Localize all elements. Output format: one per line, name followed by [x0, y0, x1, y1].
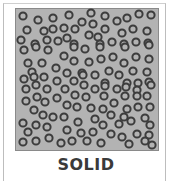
- particle-icon: [34, 16, 41, 23]
- particle-icon: [70, 57, 77, 64]
- particle-icon: [145, 41, 152, 48]
- particle-icon: [118, 133, 125, 140]
- particle-icon: [148, 141, 155, 148]
- state-label: SOLID: [0, 155, 172, 174]
- particle-icon: [43, 123, 50, 130]
- particle-icon: [146, 103, 153, 110]
- particle-icon: [113, 85, 120, 92]
- particle-icon: [65, 11, 72, 18]
- particle-icon: [32, 81, 39, 88]
- particle-icon: [49, 14, 56, 21]
- particle-icon: [85, 58, 92, 65]
- particle-icon: [30, 106, 37, 113]
- particle-icon: [54, 37, 61, 44]
- particle-icon: [133, 130, 140, 137]
- particle-icon: [97, 55, 104, 62]
- particle-icon: [19, 119, 26, 126]
- particle-icon: [33, 93, 40, 100]
- particle-icon: [97, 139, 104, 146]
- particle-icon: [129, 67, 136, 74]
- particle-icon: [22, 85, 29, 92]
- particle-icon: [113, 17, 120, 24]
- particle-icon: [127, 117, 134, 124]
- particle-icon: [145, 55, 152, 62]
- particle-icon: [143, 27, 150, 34]
- particle-icon: [83, 137, 90, 144]
- particle-icon: [79, 71, 86, 78]
- particle-icon: [120, 113, 127, 120]
- particle-icon: [99, 121, 106, 128]
- particle-icon: [19, 12, 26, 19]
- particle-icon: [63, 34, 70, 41]
- particle-icon: [107, 111, 114, 118]
- particle-icon: [32, 121, 39, 128]
- particle-icon: [81, 45, 88, 52]
- particle-icon: [115, 71, 122, 78]
- particle-icon: [78, 18, 85, 25]
- particle-icon: [60, 113, 67, 120]
- particle-icon: [19, 138, 26, 145]
- particle-icon: [70, 77, 77, 84]
- particle-icon: [24, 128, 31, 135]
- particle-icon: [53, 77, 60, 84]
- particle-icon: [143, 92, 150, 99]
- particle-icon: [30, 73, 37, 80]
- particle-icon: [146, 121, 153, 128]
- particle-icon: [49, 113, 56, 120]
- particle-icon: [60, 52, 67, 59]
- particle-icon: [132, 38, 139, 45]
- particle-icon: [77, 129, 84, 136]
- particle-icon: [24, 59, 31, 66]
- particle-icon: [63, 126, 70, 133]
- particle-icon: [134, 103, 141, 110]
- particle-icon: [122, 83, 129, 90]
- particle-icon: [91, 71, 98, 78]
- particle-icon: [53, 94, 60, 101]
- particle-icon: [70, 43, 77, 50]
- particle-icon: [61, 85, 68, 92]
- particle-icon: [118, 29, 125, 36]
- particle-icon: [60, 24, 67, 31]
- particle-icon: [101, 82, 108, 89]
- particle-icon: [22, 97, 29, 104]
- particle-icon: [43, 36, 50, 43]
- particle-icon: [132, 53, 139, 60]
- particle-icon: [63, 101, 70, 108]
- particle-icon: [80, 81, 87, 88]
- particle-icon: [141, 137, 148, 144]
- particle-icon: [20, 46, 27, 53]
- particle-icon: [71, 91, 78, 98]
- solid-particle-box: [15, 8, 159, 151]
- particle-icon: [123, 14, 130, 21]
- particle-icon: [39, 111, 46, 118]
- particle-icon: [17, 36, 24, 43]
- particle-icon: [87, 104, 94, 111]
- particle-icon: [32, 43, 39, 50]
- particle-icon: [89, 20, 96, 27]
- particle-icon: [23, 26, 30, 33]
- particle-icon: [20, 75, 27, 82]
- particle-icon: [121, 92, 128, 99]
- particle-icon: [125, 140, 132, 147]
- particle-icon: [91, 85, 98, 92]
- particle-icon: [43, 85, 50, 92]
- particle-icon: [96, 43, 103, 50]
- particle-icon: [133, 92, 140, 99]
- particle-icon: [121, 43, 128, 50]
- particle-icon: [45, 134, 52, 141]
- particle-icon: [32, 137, 39, 144]
- particle-icon: [68, 137, 75, 144]
- particle-icon: [89, 128, 96, 135]
- particle-icon: [110, 99, 117, 106]
- particle-icon: [73, 103, 80, 110]
- particle-icon: [99, 105, 106, 112]
- particle-icon: [91, 115, 98, 122]
- particle-icon: [115, 120, 122, 127]
- particle-icon: [108, 38, 115, 45]
- particle-icon: [57, 139, 64, 146]
- particle-icon: [129, 25, 136, 32]
- particle-icon: [85, 31, 92, 38]
- particle-icon: [105, 67, 112, 74]
- particle-icon: [41, 98, 48, 105]
- particles: [15, 8, 159, 151]
